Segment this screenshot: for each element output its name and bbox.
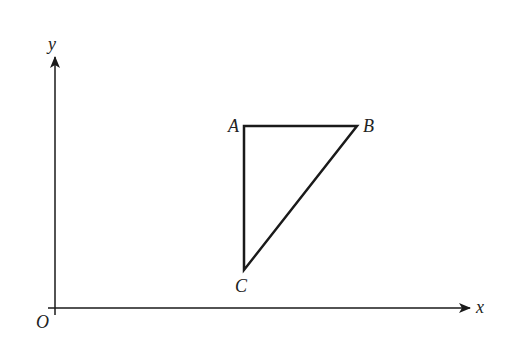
coordinate-diagram: y x O A B C [0, 0, 506, 347]
vertex-label-b: B [363, 116, 374, 136]
y-axis-label: y [46, 34, 56, 54]
origin-label: O [36, 312, 49, 332]
x-axis-label: x [475, 297, 484, 317]
vertex-label-a: A [227, 116, 240, 136]
vertex-label-c: C [235, 276, 248, 296]
triangle-abc [244, 126, 357, 270]
